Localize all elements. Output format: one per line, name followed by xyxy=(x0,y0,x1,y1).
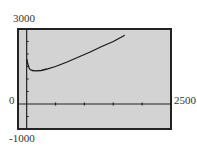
calculator-graph-screen xyxy=(0,0,197,157)
screen-frame xyxy=(18,29,171,129)
